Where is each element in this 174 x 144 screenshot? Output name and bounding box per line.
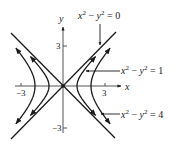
label-x2-y2-eq-4: x2 − y2 = 4 — [120, 108, 163, 120]
y-axis-label: y — [58, 13, 64, 24]
y-tick-label-neg3: −3 — [52, 123, 62, 133]
origin-point — [61, 84, 65, 88]
x-axis-label: x — [124, 81, 130, 92]
x-tick-label-neg3: −3 — [16, 88, 26, 98]
label-x2-y2-eq-1: x2 − y2 = 1 — [120, 64, 163, 76]
hyperbola-diagram: x y −3 3 3 −3 x2 − y2 = 0 x2 − y2 = 1 x2… — [0, 0, 174, 144]
label-x2-y2-eq-0: x2 − y2 = 0 — [77, 9, 120, 21]
x-tick-label-3: 3 — [102, 88, 107, 98]
y-tick-label-3: 3 — [56, 41, 61, 51]
